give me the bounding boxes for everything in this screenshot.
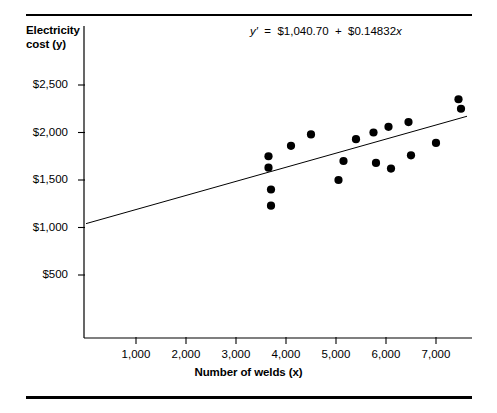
data-point xyxy=(457,105,465,113)
x-tick-label: 7,000 xyxy=(406,348,466,360)
data-point xyxy=(287,142,295,150)
data-point xyxy=(407,151,415,159)
data-point xyxy=(404,118,412,126)
data-point xyxy=(384,123,392,131)
data-point xyxy=(334,176,342,184)
y-tick-label: $1,000 xyxy=(4,221,68,233)
data-point xyxy=(432,139,440,147)
y-tick-label: $2,500 xyxy=(4,78,68,90)
data-point xyxy=(372,159,380,167)
data-point xyxy=(267,202,275,210)
data-point xyxy=(339,157,347,165)
y-tick-label: $2,000 xyxy=(4,126,68,138)
regression-line xyxy=(86,116,467,223)
data-point xyxy=(387,165,395,173)
data-point xyxy=(307,130,315,138)
data-points-group xyxy=(264,95,465,210)
data-point xyxy=(352,135,360,143)
data-point xyxy=(267,185,275,193)
y-tick-label: $500 xyxy=(4,268,68,280)
data-point xyxy=(264,152,272,160)
regression-line-group xyxy=(86,116,467,223)
figure-container: Electricity cost (y) Number of welds (x)… xyxy=(0,0,497,413)
data-point xyxy=(454,95,462,103)
axes-group xyxy=(84,26,472,338)
y-tick-label: $1,500 xyxy=(4,173,68,185)
data-point xyxy=(369,128,377,136)
data-point xyxy=(264,164,272,172)
